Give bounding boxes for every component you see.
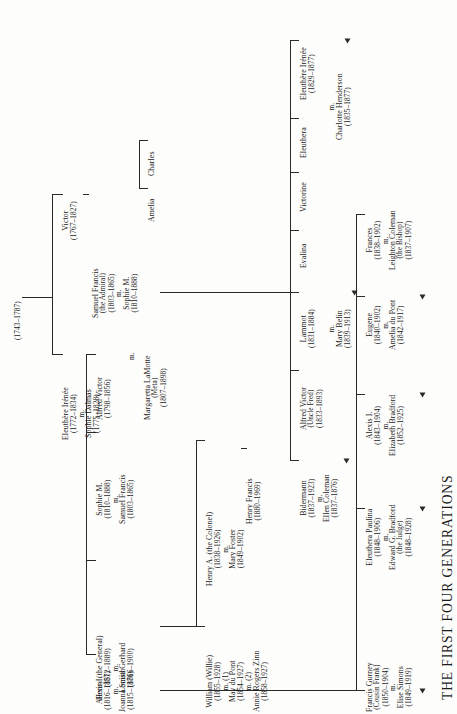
uncle-fred-years: (1833–1893): [316, 387, 324, 430]
connector-gen4-eugene: [356, 296, 365, 297]
node-samuel-francis-admiral: Samuel Francis (the Admiral) (1803–1865)…: [92, 268, 138, 318]
connector-gen2-spine: [52, 194, 53, 354]
node-victor: Victor (1767–1827): [62, 201, 78, 240]
ei4-years: (1829–1877): [308, 47, 316, 100]
node-root: (1743–1787): [14, 301, 22, 340]
amelia-name: Amelia: [148, 198, 156, 222]
node-henry-a-colonel: Henry A. (the Colonel) (1838–1926) m. Ma…: [206, 512, 245, 586]
continuation-arrow-lammot: [352, 291, 358, 296]
continuation-arrow-paulina: [420, 507, 426, 512]
node-sophie-m: Sophie M. (1810–1888) m. Samuel Francis …: [96, 474, 135, 524]
node-eleuthera-paulina: Eleuthera Paulina (1848–1906) m. Edward …: [366, 504, 412, 570]
continuation-arrow-eugene: [420, 295, 426, 300]
lammot-years: (1831–1884): [308, 309, 316, 348]
connector-henry-to-children: [160, 626, 196, 627]
alfred-victor-marriage-mark: m.: [128, 352, 136, 360]
node-william-willie: William (Willie) (1855–1928) m. (1) May …: [206, 651, 268, 712]
node-henry-francis: Henry Francis (1880–1969): [246, 478, 262, 524]
page-title: THE FIRST FOUR GENERATIONS: [440, 475, 456, 700]
charles-name: Charles: [148, 151, 156, 176]
francis-gurney-spouse-years: (1849–1919): [405, 662, 413, 712]
continuation-arrow-alexis4: [420, 393, 426, 398]
node-alexis-i-gen4: Alexis I. (1843–1904) m. Elizabeth Bradf…: [366, 395, 405, 456]
connector-gen4-ei: [290, 40, 299, 41]
paulina-spouse-years: (1848–1928): [405, 504, 413, 570]
node-lammot-spouse: m. Mary Belin (1839–1913): [328, 309, 351, 348]
connector-admiral-children: [139, 140, 140, 188]
node-bidermann: Bidermann (1837–1923) m. Ellen Coleman (…: [300, 474, 339, 522]
henry-a-spouse-years: (1849–1902): [237, 512, 245, 586]
node-alfred-victor-marriage: m.: [128, 352, 136, 360]
alfred-victor-years: (1798–1856): [104, 377, 112, 420]
alexis4-spouse-years: (1852–1925): [397, 395, 405, 456]
node-alexis-i-gen3: Alexis I. (1816–1857) m. Joanna Smith (1…: [96, 669, 135, 712]
connector-henry-a-child-stem: [241, 448, 247, 449]
evalina-name: Evalina: [300, 243, 308, 268]
lammot-spouse-years: (1839–1913): [344, 309, 352, 348]
connector-child-henry-a: [196, 440, 205, 441]
connector-gen4-spine: [290, 40, 291, 460]
connector-gen4-alexis4: [356, 394, 365, 395]
connector-gen4-eleuthera: [290, 118, 299, 119]
connector-gen4-bidermann: [290, 460, 299, 461]
connector-child-charles: [139, 140, 148, 141]
alexis-i-spouse-years: (1815–1876): [127, 669, 135, 712]
henry-francis-years: (1880–1969): [254, 478, 262, 524]
connector-child-amelia: [139, 188, 148, 189]
node-alfred-victor: Alfred Victor (1798–1856): [96, 377, 112, 420]
node-evalina: Evalina: [300, 243, 308, 268]
eleuthera-name: Eleuthera: [300, 127, 308, 158]
node-charles: Charles: [148, 151, 156, 176]
connector-gen4-lower-spine: [356, 214, 357, 690]
victor-years: (1767–1827): [70, 201, 78, 240]
connector-victor-child-stem: [83, 194, 89, 195]
continuation-arrow-ei: [345, 39, 351, 44]
william-spouse-2-years: (1858–1927): [261, 651, 269, 712]
connector-child-william: [196, 626, 205, 627]
sophie-m-spouse-years: (1803–1865): [127, 474, 135, 524]
node-lammot: Lammot (1831–1884): [300, 309, 316, 348]
connector-gen4-victorine: [290, 172, 299, 173]
root-years: (1743–1787): [14, 301, 22, 340]
connector-gen3-alfred: [86, 354, 96, 355]
eugene-spouse-years: (1842–1917): [397, 300, 405, 350]
node-amelia: Amelia: [148, 198, 156, 222]
connector-gen4-lammot: [290, 292, 299, 293]
connector-gen4-evelina: [290, 230, 299, 231]
connector-gen4-francis-gurney: [356, 690, 365, 691]
frances-spouse-years: (1837–1907): [405, 210, 413, 270]
connector-gen2-eleuthere: [52, 354, 63, 355]
continuation-arrow-francis: [420, 689, 426, 694]
admiral-spouse-years: (1810–1888): [131, 268, 139, 318]
node-eleuthera: Eleuthera: [300, 127, 308, 158]
node-alfred-victor-uncle-fred: Alfred Victor (Uncle Fred) (1833–1893): [300, 387, 323, 430]
connector-gen3-henry: [86, 560, 96, 561]
genealogy-chart: (1743–1787) Victor (1767–1827) Eleuthère…: [0, 0, 457, 714]
connector-henry-children-spine: [196, 440, 197, 626]
bidermann-spouse-years: (1837–1876): [331, 474, 339, 522]
node-meta: Margaretta LaMotte (Meta) (1807–1898): [144, 355, 167, 420]
node-francis-gurney: Francis Gurney (Cousin Frank) (1850–1904…: [366, 662, 412, 712]
ei4-spouse-years: (1835–1877): [344, 73, 352, 140]
node-frances: Frances (1838–1902) m. Leighton Coleman …: [366, 210, 412, 270]
connector-gen2-victor: [52, 194, 63, 195]
meta-years: (1807–1898): [160, 355, 168, 420]
connector-alfred-to-gen4: [160, 292, 290, 293]
node-victorine: Victorine: [300, 182, 308, 212]
victorine-name: Victorine: [300, 182, 308, 212]
node-eugene: Eugene (1840–1902) m. Amelia du Pont (18…: [366, 300, 405, 350]
node-eleuthere-irenee-gen4: Eleuthère Irénée (1829–1877): [300, 47, 316, 100]
connector-gen4-alfred-uf: [290, 370, 299, 371]
node-ei4-spouse: m. Charlotte Henderson (1835–1877): [328, 73, 351, 140]
continuation-arrow-bidermann: [344, 459, 350, 464]
connector-gen4-eleuthera-paulina: [356, 508, 365, 509]
connector-root-stem: [22, 297, 52, 298]
connector-gen4-frances: [356, 214, 365, 215]
